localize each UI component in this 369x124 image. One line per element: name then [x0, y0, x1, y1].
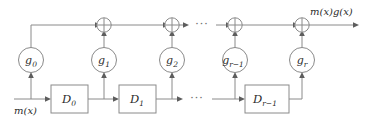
adder-node-4 — [295, 18, 309, 32]
wire-dr1-to-gr — [289, 78, 302, 99]
arrow-input-to-d0 — [45, 96, 51, 102]
circuit-diagram: g0 g1 g2 gr−1 gr D0 D1 Dr−1 m(x) m(x)g(x… — [0, 0, 369, 124]
ellipsis-bottom: ··· — [190, 92, 204, 105]
input-label: m(x) — [14, 105, 37, 116]
adder-node-3 — [228, 18, 242, 32]
arrow-d0-to-d1 — [113, 96, 119, 102]
adder-node-1 — [97, 18, 111, 32]
arrow-adder2-to-gap — [183, 22, 189, 28]
output-label: m(x)g(x) — [310, 6, 353, 17]
arrow-output — [353, 22, 359, 28]
arrow-gap-to-dr1 — [239, 96, 245, 102]
wire-g0-to-adder1 — [31, 25, 95, 48]
arrow-d1-to-gap — [177, 96, 183, 102]
circuit-canvas: g0 g1 g2 gr−1 gr D0 D1 Dr−1 m(x) m(x)g(x… — [0, 0, 369, 124]
adder-node-2 — [165, 18, 179, 32]
ellipsis-top: ··· — [195, 18, 209, 31]
